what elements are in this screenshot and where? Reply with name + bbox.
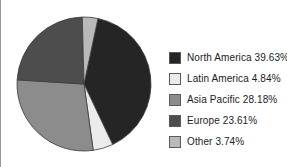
- legend-swatch-north-america-icon: [169, 52, 181, 64]
- legend-label-latin-america: Latin America 4.84%: [187, 73, 281, 84]
- pie-chart-figure: North America 39.63% Latin America 4.84%…: [0, 0, 287, 167]
- legend-item-north-america: North America 39.63%: [169, 47, 287, 68]
- legend-swatch-latin-america-icon: [169, 73, 181, 85]
- legend-item-other: Other 3.74%: [169, 131, 287, 152]
- pie-chart-plot-area: [11, 8, 163, 160]
- pie-slice: [17, 17, 84, 84]
- legend-swatch-europe-icon: [169, 115, 181, 127]
- legend-label-asia-pacific: Asia Pacific 28.18%: [187, 94, 277, 105]
- pie-slice: [17, 80, 93, 151]
- legend-swatch-asia-pacific-icon: [169, 94, 181, 106]
- legend-item-latin-america: Latin America 4.84%: [169, 68, 287, 89]
- legend-swatch-other-icon: [169, 136, 181, 148]
- chart-legend: North America 39.63% Latin America 4.84%…: [169, 47, 287, 152]
- legend-label-north-america: North America 39.63%: [187, 52, 287, 63]
- legend-item-europe: Europe 23.61%: [169, 110, 287, 131]
- legend-item-asia-pacific: Asia Pacific 28.18%: [169, 89, 287, 110]
- legend-label-other: Other 3.74%: [187, 136, 244, 147]
- pie-slice-group: [17, 17, 151, 151]
- pie-chart-svg: [11, 8, 163, 160]
- legend-label-europe: Europe 23.61%: [187, 115, 257, 126]
